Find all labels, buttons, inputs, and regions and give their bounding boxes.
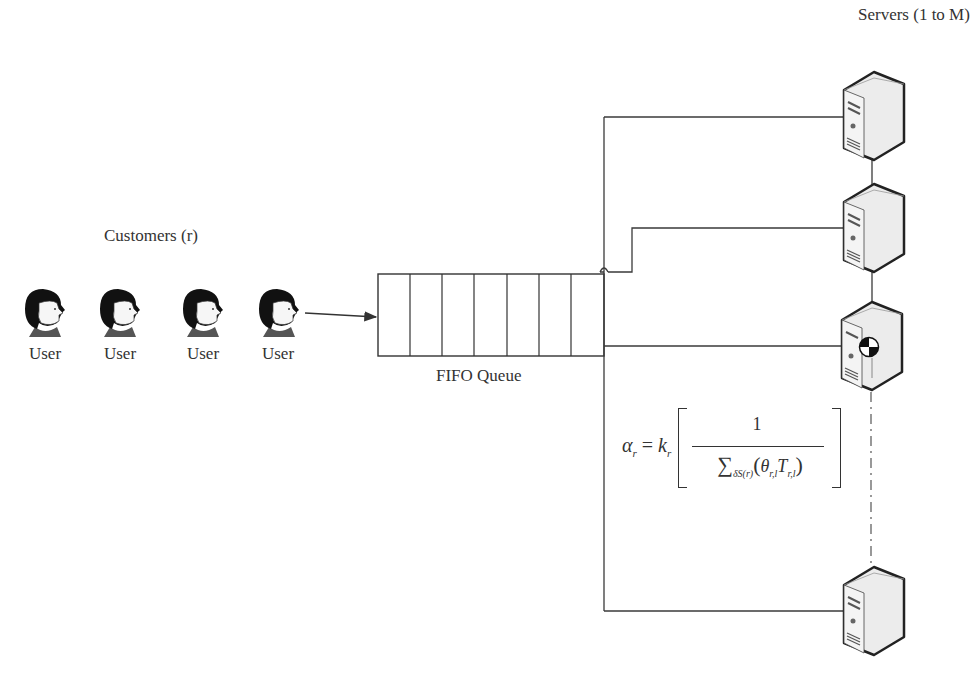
server-tower-icon [840, 563, 908, 659]
user-3 [175, 283, 231, 343]
arrival-arrow [305, 313, 376, 317]
user-4 [251, 283, 307, 343]
server-tower-icon [840, 68, 908, 164]
dispatch-lines [600, 117, 874, 611]
right-bracket [832, 408, 841, 488]
user-4-label: User [248, 344, 308, 364]
pie-status-icon [858, 336, 880, 358]
servers-label: Servers (1 to M) [858, 5, 970, 25]
user-1-label: User [15, 344, 75, 364]
fifo-queue [378, 274, 604, 356]
formula-denominator: ∑δS(r)(θr,lTr,l) [690, 452, 830, 479]
formula-lhs: αr = kr [622, 434, 671, 459]
alpha-symbol: α [622, 434, 633, 456]
formula-numerator: 1 [692, 414, 822, 435]
close-paren: ) [795, 452, 802, 477]
user-1 [17, 283, 73, 343]
allocation-formula: αr = kr 1 ∑δS(r)(θr,lTr,l) [622, 408, 852, 494]
user-avatar-icon [92, 283, 148, 339]
k-symbol: k [658, 434, 667, 456]
left-bracket [678, 408, 687, 488]
server-2 [840, 180, 908, 280]
k-subscript: r [667, 447, 671, 459]
queue-label: FIFO Queue [436, 366, 521, 386]
user-3-label: User [173, 344, 233, 364]
server-3 [838, 298, 906, 398]
t-symbol: T [777, 456, 787, 476]
theta-symbol: θ [760, 456, 769, 476]
server-1 [840, 68, 908, 168]
customers-label: Customers (r) [104, 226, 198, 246]
sum-subscript: δS(r) [733, 468, 753, 479]
fraction-bar [692, 446, 824, 447]
user-2-label: User [90, 344, 150, 364]
server-m [840, 563, 908, 663]
sum-symbol: ∑ [717, 452, 733, 477]
equals-sign: = [637, 434, 658, 456]
server-tower-icon [840, 180, 908, 276]
user-avatar-icon [251, 283, 307, 339]
user-2 [92, 283, 148, 343]
user-avatar-icon [17, 283, 73, 339]
user-avatar-icon [175, 283, 231, 339]
